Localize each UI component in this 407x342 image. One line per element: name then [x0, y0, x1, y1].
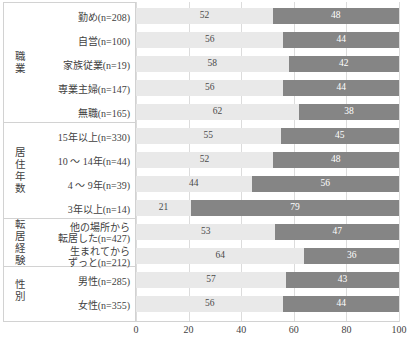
bar-row: 6436	[136, 248, 399, 264]
bar-value-b: 44	[336, 35, 346, 45]
bar-value-b: 42	[339, 59, 349, 69]
bar-value-a: 55	[204, 131, 214, 141]
bar-segment-a: 56	[136, 296, 283, 312]
bar-value-b: 45	[335, 131, 345, 141]
category-label: 勤め(n=208)	[26, 12, 130, 23]
bar-row: 4456	[136, 176, 399, 192]
bar-value-a: 64	[215, 251, 225, 261]
bar-segment-a: 56	[136, 32, 283, 48]
category-label: 無職(n=165)	[26, 108, 130, 119]
bar-value-a: 62	[213, 107, 223, 117]
bar-row: 5347	[136, 224, 399, 240]
bar-row: 5644	[136, 80, 399, 96]
stacked-bar-chart: 職業勤め(n=208)自営(n=100)家族従業(n=19)専業主婦(n=147…	[0, 0, 407, 342]
bar-value-b: 47	[332, 227, 342, 237]
bar-segment-a: 62	[136, 104, 299, 120]
bar-row: 6238	[136, 104, 399, 120]
bar-value-a: 52	[200, 11, 210, 21]
bar-segment-a: 56	[136, 80, 283, 96]
bar-segment-b: 79	[191, 200, 399, 216]
x-axis: 020406080100	[136, 322, 399, 340]
bar-value-a: 57	[206, 275, 216, 285]
bar-segment-b: 43	[286, 272, 399, 288]
category-label: 3年以上(n=14)	[26, 204, 130, 215]
category-group: 転居経験他の場所から 転居した(n=427)生まれてから ずっと(n=212)	[4, 219, 135, 267]
category-label: 15年以上(n=330)	[26, 132, 130, 143]
bar-segment-a: 57	[136, 272, 286, 288]
bar-value-a: 58	[208, 59, 218, 69]
plot-area: 5248564458425644623855455248445621795347…	[136, 2, 399, 322]
x-axis-tick-label: 60	[289, 324, 299, 335]
category-label: 生まれてから ずっと(n=212)	[26, 246, 130, 268]
bar-value-a: 44	[189, 179, 199, 189]
category-label-table: 職業勤め(n=208)自営(n=100)家族従業(n=19)専業主婦(n=147…	[3, 2, 136, 322]
bar-value-a: 56	[205, 299, 215, 309]
bar-segment-a: 44	[136, 176, 252, 192]
bar-value-b: 38	[344, 107, 354, 117]
category-label: 女性(n=355)	[26, 300, 130, 311]
bar-value-b: 36	[347, 251, 357, 261]
bar-value-a: 52	[200, 155, 210, 165]
bar-segment-a: 58	[136, 56, 289, 72]
bar-row: 5248	[136, 152, 399, 168]
category-group: 性別男性(n=285)女性(n=355)	[4, 267, 135, 315]
bar-segment-a: 64	[136, 248, 304, 264]
bar-segment-b: 44	[283, 80, 399, 96]
bar-value-b: 43	[338, 275, 348, 285]
bar-value-b: 56	[321, 179, 331, 189]
bar-segment-b: 44	[283, 32, 399, 48]
bar-segment-a: 21	[136, 200, 191, 216]
bar-segment-b: 36	[304, 248, 399, 264]
bar-segment-b: 45	[281, 128, 399, 144]
bar-segment-b: 38	[299, 104, 399, 120]
bar-value-a: 56	[205, 83, 215, 93]
bar-value-b: 79	[290, 203, 300, 213]
bar-row: 5842	[136, 56, 399, 72]
bar-value-a: 56	[205, 35, 215, 45]
bar-segment-b: 48	[273, 152, 399, 168]
bar-value-b: 48	[331, 11, 341, 21]
bar-value-a: 53	[201, 227, 211, 237]
x-axis-tick-label: 100	[392, 324, 407, 335]
category-group: 職業勤め(n=208)自営(n=100)家族従業(n=19)専業主婦(n=147…	[4, 3, 135, 123]
bar-row: 5644	[136, 32, 399, 48]
bar-segment-b: 47	[275, 224, 399, 240]
bar-value-b: 44	[336, 83, 346, 93]
category-label: 専業主婦(n=147)	[26, 84, 130, 95]
bar-segment-b: 44	[283, 296, 399, 312]
bar-row: 5743	[136, 272, 399, 288]
bar-segment-b: 42	[289, 56, 399, 72]
bar-segment-a: 52	[136, 8, 273, 24]
category-label: 家族従業(n=19)	[26, 60, 130, 71]
bar-segment-a: 52	[136, 152, 273, 168]
bar-value-a: 21	[159, 203, 169, 213]
x-axis-tick-label: 20	[184, 324, 194, 335]
category-label: 4 ～ 9年(n=39)	[26, 180, 130, 191]
bar-segment-b: 56	[252, 176, 399, 192]
x-axis-tick-label: 0	[134, 324, 139, 335]
bar-row: 5545	[136, 128, 399, 144]
bar-row: 2179	[136, 200, 399, 216]
bar-value-b: 44	[336, 299, 346, 309]
bar-row: 5644	[136, 296, 399, 312]
x-axis-tick-label: 80	[341, 324, 351, 335]
bar-row: 5248	[136, 8, 399, 24]
x-axis-tick-label: 40	[236, 324, 246, 335]
category-label: 10 ～ 14年(n=44)	[26, 156, 130, 167]
category-label: 自営(n=100)	[26, 36, 130, 47]
bar-segment-a: 53	[136, 224, 275, 240]
bar-segment-b: 48	[273, 8, 399, 24]
category-label: 他の場所から 転居した(n=427)	[26, 222, 130, 244]
gridline	[399, 2, 400, 322]
bar-segment-a: 55	[136, 128, 281, 144]
category-group: 居住年数15年以上(n=330)10 ～ 14年(n=44)4 ～ 9年(n=3…	[4, 123, 135, 219]
bar-value-b: 48	[331, 155, 341, 165]
category-label: 男性(n=285)	[26, 276, 130, 287]
